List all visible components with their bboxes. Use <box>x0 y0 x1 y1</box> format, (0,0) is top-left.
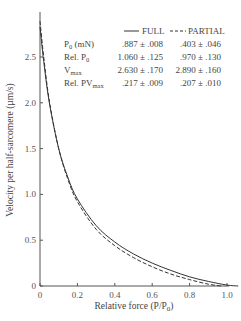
partial-value: .207 ± .010 <box>180 78 221 88</box>
y-tick-label: 1.0 <box>25 189 37 199</box>
x-tick-label: 0.4 <box>109 290 121 300</box>
full-value: .217 ± .009 <box>122 78 163 88</box>
param-label: Rel. PVmax <box>64 78 104 89</box>
legend-full-label: FULL <box>142 26 165 36</box>
x-axis-label: Relative force (P/P0) <box>95 301 174 313</box>
partial-value: .403 ± .046 <box>180 39 221 49</box>
partial-value: 2.890 ± .160 <box>176 65 222 75</box>
full-value: 1.060 ± .125 <box>118 52 164 62</box>
full-value: 2.630 ± .170 <box>118 65 164 75</box>
x-tick-label: 0.8 <box>184 290 196 300</box>
y-axis-label: Velocity per half-sarcomere (µm/s) <box>5 83 16 216</box>
y-tick-label: 2.5 <box>25 52 37 62</box>
legend-partial-label: PARTIAL <box>188 26 225 36</box>
x-tick-label: 0.6 <box>147 290 159 300</box>
x-tick-label: 1.0 <box>221 290 233 300</box>
y-tick-label: 1.5 <box>25 144 37 154</box>
param-label: P0 (mN) <box>64 39 94 50</box>
full-value: .887 ± .008 <box>122 39 163 49</box>
y-tick-label: 0 <box>32 281 37 291</box>
param-label: Rel. P0 <box>64 52 89 63</box>
x-tick-label: 0 <box>38 290 43 300</box>
param-label: Vmax <box>64 65 82 76</box>
parameter-table: FULLPARTIALP0 (mN).887 ± .008.403 ± .046… <box>64 26 225 89</box>
y-tick-label: 0.5 <box>25 235 37 245</box>
y-tick-label: 2.0 <box>25 98 37 108</box>
partial-value: .970 ± .130 <box>180 52 221 62</box>
force-velocity-chart: 00.20.40.60.81.0 00.51.01.52.02.5 Relati… <box>0 0 241 321</box>
x-tick-label: 0.2 <box>72 290 83 300</box>
